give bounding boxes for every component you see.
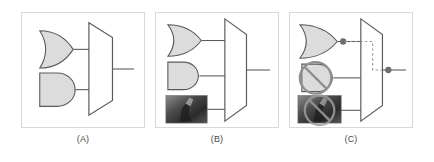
- mux-trapezoid: [225, 19, 247, 121]
- panel-a: [21, 12, 145, 128]
- panel-c-diagram: [290, 13, 412, 127]
- or-gate: [168, 25, 201, 56]
- panel-b-diagram: [156, 13, 278, 127]
- or-gate: [40, 31, 73, 68]
- panel-label-b: (B): [155, 134, 279, 144]
- panel-label-c: (C): [289, 134, 413, 144]
- logic-gate-figure: (A): [0, 0, 434, 162]
- panel-b: [155, 12, 279, 128]
- blocked-gate: [300, 62, 332, 93]
- or-gate: [300, 25, 337, 58]
- panel-label-a: (A): [21, 134, 145, 144]
- and-gate: [168, 62, 198, 90]
- mux-trapezoid: [361, 19, 383, 121]
- mux-trapezoid: [89, 23, 113, 115]
- panel-c: [289, 12, 413, 128]
- dashed-route: [345, 42, 384, 71]
- photo-thumbnail: [166, 96, 207, 124]
- and-gate: [40, 73, 75, 106]
- panel-a-diagram: [22, 13, 144, 127]
- output-dot: [385, 67, 391, 73]
- blocked-photo-thumbnail: [298, 96, 341, 125]
